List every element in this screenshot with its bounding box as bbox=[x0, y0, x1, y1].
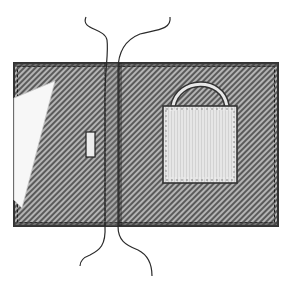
slot bbox=[86, 132, 95, 157]
wallet-diagram bbox=[0, 0, 287, 283]
pocket bbox=[163, 106, 237, 183]
